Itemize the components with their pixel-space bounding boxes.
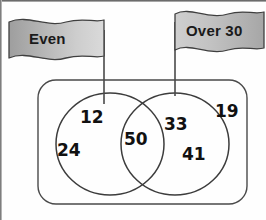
left-only-value-2: 24 xyxy=(57,140,81,160)
scan-edge-left xyxy=(0,0,2,220)
outside-sets-value-1: 19 xyxy=(215,101,239,121)
scan-edge-top xyxy=(0,0,266,2)
right-only-value-2: 41 xyxy=(182,144,206,164)
intersection-value-1: 50 xyxy=(124,129,148,149)
left-only-value-1: 12 xyxy=(80,107,104,127)
venn-diagram-page: Even Over 30 12 24 50 33 41 19 xyxy=(0,0,266,220)
right-set-label: Over 30 xyxy=(186,22,242,39)
right-only-value-1: 33 xyxy=(164,114,188,134)
left-set-label: Even xyxy=(29,30,66,47)
